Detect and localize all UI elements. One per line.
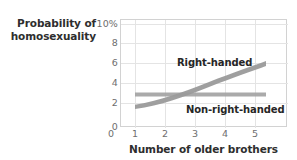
y-tick-label-10: 10% xyxy=(84,19,118,29)
x-tick-label-1: 1 xyxy=(125,128,145,139)
x-tick-label-3: 3 xyxy=(185,128,205,139)
y-axis-title-line-1: Probability of xyxy=(4,17,96,30)
series-band-right-handed xyxy=(135,61,266,109)
series-band-non-right-handed xyxy=(135,93,266,97)
x-tick-label-4: 4 xyxy=(215,128,235,139)
y-tick-label-2: 2 xyxy=(84,98,118,108)
chart-figure: Probability of homosexuality 10% 8 6 4 2… xyxy=(0,0,297,160)
y-tick-label-8: 8 xyxy=(84,38,118,48)
x-tick-label-2: 2 xyxy=(155,128,175,139)
x-tick-label-5: 5 xyxy=(245,128,265,139)
y-tick-label-4: 4 xyxy=(84,78,118,88)
series-label-non-right-handed: Non-right-handed xyxy=(186,104,285,115)
x-tick-label-0: 0 xyxy=(101,128,121,139)
x-axis-tick-labels: 0 1 2 3 4 5 xyxy=(0,128,297,142)
y-axis-title: Probability of homosexuality xyxy=(4,17,96,43)
x-axis-title: Number of older brothers xyxy=(120,143,287,155)
y-axis-title-line-2: homosexuality xyxy=(4,30,96,43)
y-tick-label-6: 6 xyxy=(84,58,118,68)
series-label-right-handed: Right-handed xyxy=(177,57,252,68)
plot-area: Right-handed Non-right-handed xyxy=(120,19,287,127)
